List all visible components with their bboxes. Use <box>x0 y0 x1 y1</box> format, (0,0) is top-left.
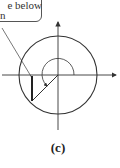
figure-caption: (c) <box>0 140 116 156</box>
callout-leader-line <box>2 28 32 78</box>
terminal-side-line <box>32 75 58 101</box>
